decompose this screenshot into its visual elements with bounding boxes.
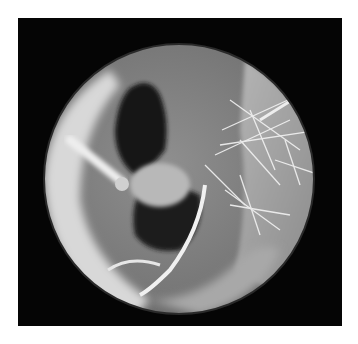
endoscope-view [0, 0, 358, 344]
view-content [40, 40, 320, 320]
reflection-tip [115, 177, 129, 191]
tissue-bulge [130, 163, 190, 207]
